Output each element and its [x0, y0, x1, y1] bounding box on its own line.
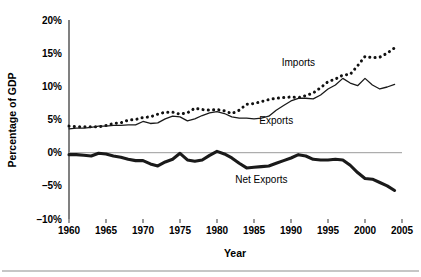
y-tick-label: 0%	[48, 147, 63, 158]
y-tick-label: 10%	[42, 81, 62, 92]
x-tick-label: 1970	[132, 225, 155, 236]
series-annotation-exports: Exports	[259, 115, 293, 126]
x-tick-label: 1995	[317, 225, 340, 236]
x-tick-label: 1980	[206, 225, 229, 236]
y-tick-label: –10%	[36, 214, 62, 225]
x-tick-label: 1990	[280, 225, 303, 236]
x-tick-label: 2005	[391, 225, 414, 236]
x-axis-title: Year	[224, 247, 246, 259]
series-annotation-imports: Imports	[282, 57, 315, 68]
x-tick-label: 2000	[354, 225, 377, 236]
x-tick-label: 1985	[243, 225, 266, 236]
x-tick-label: 1965	[95, 225, 118, 236]
x-tick-label: 1960	[58, 225, 81, 236]
export-import-gdp-line-chart: Percentage of GDP 20% 15% 10% 5% 0% –5% …	[0, 0, 421, 277]
y-axis-title: Percentage of GDP	[6, 72, 18, 167]
y-tick-label: 15%	[42, 48, 62, 59]
y-tick-label: 20%	[42, 15, 62, 26]
chart-figure: Percentage of GDP 20% 15% 10% 5% 0% –5% …	[0, 0, 421, 277]
y-tick-label: –5%	[42, 180, 62, 191]
x-tick-label: 1975	[169, 225, 192, 236]
series-annotation-net-exports: Net Exports	[235, 174, 287, 185]
y-tick-label: 5%	[48, 114, 63, 125]
